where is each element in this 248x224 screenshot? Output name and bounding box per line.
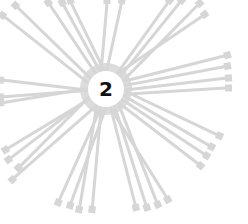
cable-tie-head (118, 0, 126, 5)
cable-tie-head (75, 205, 83, 213)
cable-tie-head (142, 203, 151, 212)
cable-tie-head (88, 206, 96, 214)
cable-tie-head (225, 84, 232, 91)
cable-tie-head (225, 74, 233, 82)
cable-tie-head (215, 131, 224, 140)
cable-tie-illustration: 2 (0, 0, 248, 224)
cable-tie-head (132, 203, 140, 211)
cable-tie-head (0, 76, 4, 84)
cable-tie-burst-icon (0, 0, 248, 224)
cable-tie-head (153, 200, 162, 209)
step-number-badge: 2 (88, 71, 124, 107)
cable-tie-head (54, 198, 63, 207)
step-number: 2 (99, 77, 113, 101)
cable-tie-head (66, 201, 75, 210)
cable-tie-head (103, 0, 110, 4)
cable-tie-head (223, 51, 232, 60)
cable-tie-head (223, 62, 231, 70)
cable-ties-group (0, 0, 232, 214)
